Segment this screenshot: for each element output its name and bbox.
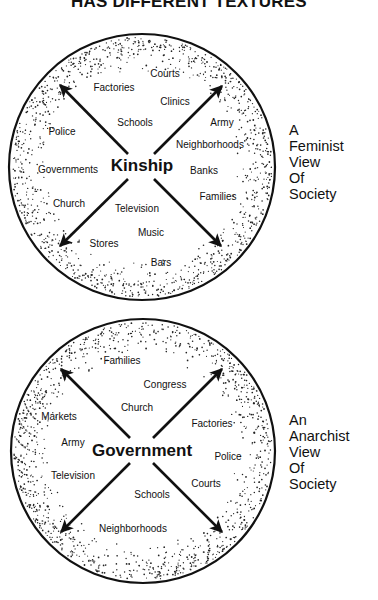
caption-line: View [289, 444, 349, 460]
institution-label: Markets [41, 411, 77, 422]
institution-label: Governments [38, 164, 98, 175]
center-label-government: Government [92, 441, 192, 461]
caption-line: Of [289, 170, 344, 186]
institution-label: Clinics [160, 96, 189, 107]
institution-label: Stores [90, 238, 119, 249]
institution-label: Church [53, 198, 85, 209]
caption-line: Feminist [289, 138, 344, 154]
institution-label: Congress [144, 379, 187, 390]
institution-label: Television [115, 203, 159, 214]
institution-label: Schools [117, 117, 153, 128]
diagram-canvas [0, 0, 378, 600]
caption-line: A [289, 122, 344, 138]
institution-label: Television [51, 470, 95, 481]
institution-label: Bars [151, 257, 172, 268]
institution-label: Factories [191, 418, 232, 429]
institution-label: Neighborhoods [176, 139, 244, 150]
institution-label: Army [210, 117, 233, 128]
institution-label: Families [103, 355, 140, 366]
caption-line: An [289, 412, 349, 428]
institution-label: Police [214, 451, 241, 462]
institution-label: Neighborhoods [99, 523, 167, 534]
institution-label: Church [121, 402, 153, 413]
institution-label: Courts [150, 68, 179, 79]
center-label-kinship: Kinship [111, 156, 173, 176]
institution-label: Army [61, 437, 84, 448]
institution-label: Police [48, 126, 75, 137]
institution-label: Music [138, 227, 164, 238]
caption-line: Anarchist [289, 428, 349, 444]
caption-line: Society [289, 186, 344, 202]
institution-label: Factories [93, 82, 134, 93]
institution-label: Schools [134, 489, 170, 500]
caption-line: View [289, 154, 344, 170]
institution-label: Families [199, 191, 236, 202]
institution-label: Banks [190, 165, 218, 176]
caption-anarchist-view: An Anarchist View Of Society [289, 412, 349, 492]
caption-line: Of [289, 460, 349, 476]
institution-label: Courts [191, 478, 220, 489]
caption-line: Society [289, 476, 349, 492]
caption-feminist-view: A Feminist View Of Society [289, 122, 344, 202]
